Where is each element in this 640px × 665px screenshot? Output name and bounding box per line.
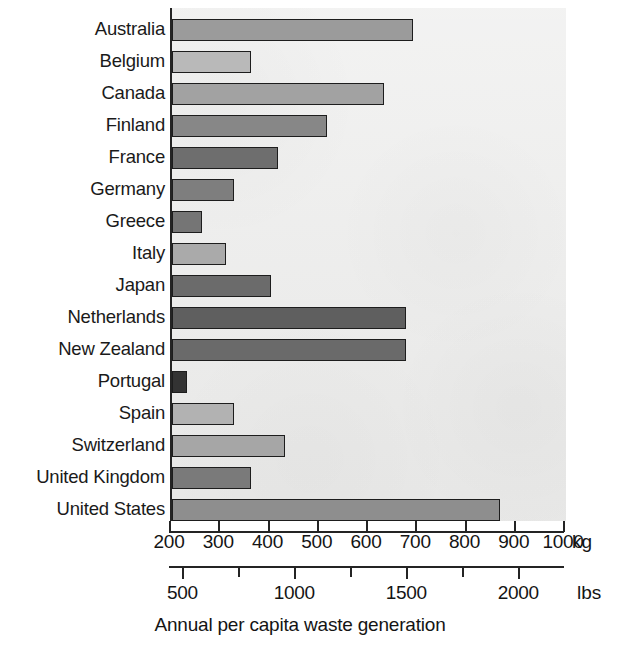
bar-row (172, 302, 566, 334)
bar (172, 467, 251, 489)
bar (172, 115, 327, 137)
bar-row (172, 238, 566, 270)
lbs-tick (462, 566, 464, 577)
category-label: France (5, 146, 165, 168)
bar-row (172, 174, 566, 206)
category-label: Portugal (5, 370, 165, 392)
bar (172, 19, 413, 41)
lbs-tick (238, 566, 240, 577)
bar (172, 307, 406, 329)
waste-generation-bar-chart: AustraliaBelgiumCanadaFinlandFranceGerma… (0, 0, 640, 665)
lbs-tick-label: 500 (167, 582, 198, 604)
lbs-tick (350, 566, 352, 577)
bar (172, 179, 234, 201)
bar-row (172, 78, 566, 110)
bar (172, 147, 278, 169)
bar-row (172, 398, 566, 430)
bar (172, 339, 406, 361)
category-label: Australia (5, 18, 165, 40)
kg-tick-label: 400 (252, 531, 283, 553)
category-label: Spain (5, 402, 165, 424)
bar-row (172, 430, 566, 462)
category-label: Italy (5, 242, 165, 264)
lbs-tick-label: 2000 (498, 582, 539, 604)
category-label: Switzerland (5, 434, 165, 456)
kg-tick-label: 200 (154, 531, 185, 553)
category-label: United Kingdom (5, 466, 165, 488)
category-label: Greece (5, 210, 165, 232)
lbs-tick-label: 1500 (386, 582, 427, 604)
kg-tick-label: 500 (301, 531, 332, 553)
bar (172, 83, 384, 105)
lbs-axis-tick-labels: lbs 500100015002000 (0, 582, 640, 610)
bar (172, 51, 251, 73)
category-label: Japan (5, 274, 165, 296)
lbs-tick (182, 566, 184, 579)
lbs-tick (294, 566, 296, 579)
plot-area (170, 8, 566, 521)
bar (172, 243, 226, 265)
bar (172, 275, 271, 297)
kg-axis-tick-labels: kg 2003004005006007008009001000 (0, 531, 640, 559)
kg-tick-label: 900 (498, 531, 529, 553)
x-axis-title: Annual per capita waste generation (0, 614, 600, 636)
lbs-axis-line (169, 566, 564, 568)
bar-row (172, 462, 566, 494)
category-labels: AustraliaBelgiumCanadaFinlandFranceGerma… (0, 8, 165, 521)
bar-row (172, 142, 566, 174)
bar (172, 403, 234, 425)
lbs-tick (406, 566, 408, 579)
bar-row (172, 206, 566, 238)
kg-tick-label: 700 (400, 531, 431, 553)
category-label: Belgium (5, 50, 165, 72)
bar-row (172, 14, 566, 46)
category-label: Canada (5, 82, 165, 104)
lbs-tick (518, 566, 520, 579)
bar-row (172, 270, 566, 302)
bar-row (172, 110, 566, 142)
bar (172, 371, 187, 393)
bar (172, 211, 202, 233)
lbs-unit-label: lbs (577, 582, 601, 604)
bar (172, 435, 285, 457)
lbs-axis (169, 566, 564, 578)
bar-row (172, 334, 566, 366)
kg-tick-label: 300 (203, 531, 234, 553)
category-label: Finland (5, 114, 165, 136)
category-label: Netherlands (5, 306, 165, 328)
kg-tick-label: 1000 (542, 531, 583, 553)
category-label: Germany (5, 178, 165, 200)
category-label: United States (5, 498, 165, 520)
lbs-tick-label: 1000 (274, 582, 315, 604)
bar-row (172, 366, 566, 398)
bar-row (172, 46, 566, 78)
bar (172, 499, 500, 521)
category-label: New Zealand (5, 338, 165, 360)
kg-tick-label: 800 (449, 531, 480, 553)
kg-tick-label: 600 (351, 531, 382, 553)
